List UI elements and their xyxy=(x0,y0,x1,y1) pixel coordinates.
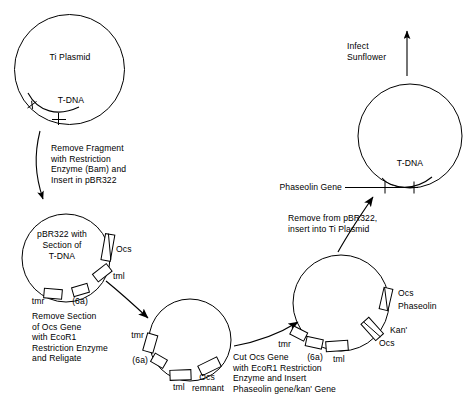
religated-gene-label-tmr: tmr xyxy=(108,330,144,341)
pbr322-center-label-line2: Section of xyxy=(26,240,98,251)
ti-recombinant-shape xyxy=(345,84,462,194)
phaseolin-plasmid-gene-label-phaseolin: Phaseolin xyxy=(398,301,437,312)
ti-recombinant-tdna-label: T-DNA xyxy=(382,158,438,169)
ti-recombinant-phaseolin-insert-label: Phaseolin Gene xyxy=(272,182,342,193)
diagram-canvas: Ti Plasmid T-DNA Remove Fragment with Re… xyxy=(0,0,473,414)
pbr322-gene-label-tmr: tmr xyxy=(21,296,55,307)
religated-gene-label-remnant: remnant xyxy=(185,383,231,394)
ti-plasmid-tdna-label: T-DNA xyxy=(41,95,101,106)
religated-gene-label-ocs: Ocs xyxy=(191,372,223,383)
phaseolin-plasmid-gene-label-tmr: tmr xyxy=(255,339,291,350)
pbr322-gene-label-tml: tml xyxy=(113,271,125,282)
pbr322-phaseolin-shape xyxy=(290,255,393,352)
phaseolin-plasmid-gene-label-ocs-upper: Ocs xyxy=(398,288,414,299)
step-remove-fragment-text: Remove Fragment with Restriction Enzyme … xyxy=(51,143,171,185)
religated-gene-label-6a: (6a) xyxy=(114,355,148,366)
phaseolin-plasmid-gene-label-kan: Kan' xyxy=(390,325,407,336)
step-reinsert-ti-text: Remove from pBR322, insert into Ti Plasm… xyxy=(288,213,438,234)
arrow-ti-to-pbr322 xyxy=(36,131,43,199)
pbr322-center-label-line1: pBR322 with xyxy=(26,229,98,240)
pbr322-center-label-line3: T-DNA xyxy=(26,251,98,262)
phaseolin-plasmid-gene-label-6a: (6a) xyxy=(299,352,331,363)
phaseolin-plasmid-gene-label-ocs-lower: Ocs xyxy=(379,338,395,349)
ti-plasmid-center-label: Ti Plasmid xyxy=(34,52,106,63)
pbr322-gene-label-6a: (6a) xyxy=(62,296,98,307)
step-infect-sunflower-text: Infect Sunflower xyxy=(347,41,405,62)
ti-plasmid-shape xyxy=(15,15,125,126)
pbr322-gene-label-ocs: Ocs xyxy=(116,244,132,255)
